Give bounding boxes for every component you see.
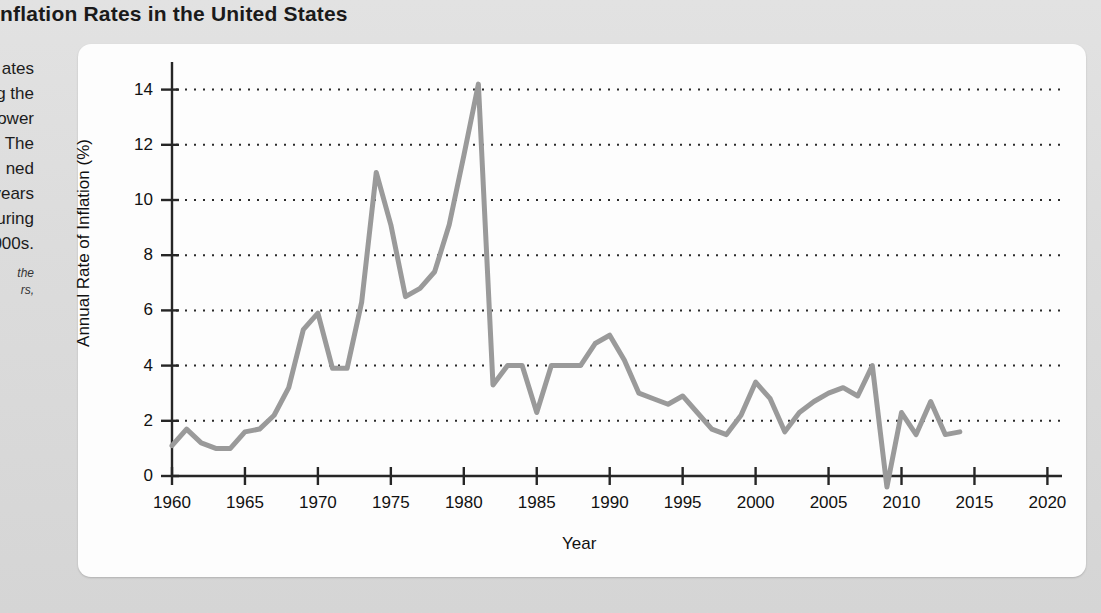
y-tick-label: 10 — [134, 190, 153, 210]
y-tick-label: 12 — [134, 135, 153, 155]
x-tick-label: 1965 — [226, 493, 264, 513]
y-tick-label: 14 — [134, 80, 153, 100]
x-axis-label: Year — [562, 534, 596, 554]
x-tick-label: 2005 — [810, 493, 848, 513]
x-tick-label: 1990 — [591, 493, 629, 513]
x-tick-label: 1980 — [445, 493, 483, 513]
x-tick-label: 1970 — [299, 493, 337, 513]
y-axis-label: Annual Rate of Inflation (%) — [74, 123, 94, 363]
y-tick-label: 4 — [144, 356, 153, 376]
y-tick-label: 0 — [144, 466, 153, 486]
x-tick-label: 2000 — [737, 493, 775, 513]
inflation-series-line — [172, 84, 960, 487]
x-tick-label: 1995 — [664, 493, 702, 513]
y-tick-label: 2 — [144, 411, 153, 431]
x-tick-label: 2015 — [956, 493, 994, 513]
x-tick-label: 1960 — [153, 493, 191, 513]
x-tick-label: 1985 — [518, 493, 556, 513]
page-background: Inflation Rates in the United States ate… — [0, 0, 1101, 613]
x-tick-label: 1975 — [372, 493, 410, 513]
y-tick-label: 8 — [144, 245, 153, 265]
x-tick-label: 2010 — [883, 493, 921, 513]
axis-ticks — [161, 90, 1047, 485]
x-tick-label: 2020 — [1028, 493, 1066, 513]
y-tick-label: 6 — [144, 300, 153, 320]
inflation-line-chart: Annual Rate of Inflation (%) Year 196019… — [0, 0, 1101, 613]
chart-svg — [0, 0, 1101, 613]
gridlines — [176, 90, 1062, 421]
